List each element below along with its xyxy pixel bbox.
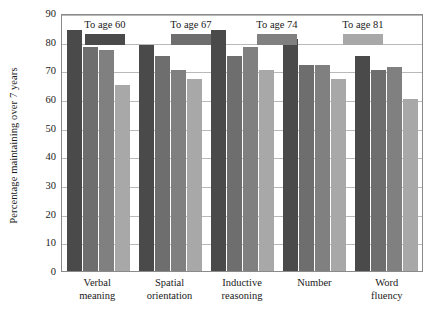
bar[interactable] [171,70,186,271]
bar[interactable] [355,56,370,271]
y-axis-tick-label: 60 [46,95,57,106]
bar[interactable] [67,30,82,271]
bar[interactable] [115,85,130,271]
y-axis-tick-label: 0 [51,267,56,278]
x-axis-tick-label: Inductivereasoning [206,276,278,302]
bar[interactable] [83,47,98,271]
legend-swatch [85,34,125,45]
y-axis-tick-label: 70 [46,66,57,77]
bar-group [62,15,134,271]
legend-label: To age 67 [170,19,211,31]
bar[interactable] [371,70,386,271]
bar-chart-figure: Percentage maintaining over 7 years 9080… [0,0,448,318]
bar-groups [62,15,422,271]
y-axis-tick-label: 30 [46,181,57,192]
legend-swatch [343,34,383,45]
bar[interactable] [211,30,226,271]
x-axis-tick-label: Wordfluency [351,276,423,302]
bar-group [350,15,422,271]
bar[interactable] [403,99,418,271]
y-axis-tick-label: 90 [46,9,57,20]
bar[interactable] [243,47,258,271]
bar[interactable] [283,39,298,271]
x-axis-tick-label: Number [278,276,350,302]
bar[interactable] [259,70,274,271]
legend-label: To age 81 [342,19,383,31]
bar[interactable] [331,79,346,271]
y-axis-tick-label: 50 [46,123,57,134]
bar-group [206,15,278,271]
legend-label: To age 60 [84,19,125,31]
bar[interactable] [387,67,402,271]
x-axis-tick-label-line: fluency [351,289,423,302]
y-axis-title: Percentage maintaining over 7 years [8,67,19,223]
bar[interactable] [139,45,154,271]
x-axis-tick-label-line: meaning [61,289,133,302]
x-axis-tick-label-line: reasoning [206,289,278,302]
legend-item-4[interactable]: To age 81 [328,19,398,45]
plot-area: To age 60To age 67To age 74To age 81 [61,14,423,272]
y-axis-tick-label: 40 [46,152,57,163]
legend-swatch [171,34,211,45]
bar[interactable] [187,79,202,271]
x-axis-tick-label: Spatialorientation [133,276,205,302]
legend-item-3[interactable]: To age 74 [242,19,312,45]
legend-item-2[interactable]: To age 67 [156,19,226,45]
bar[interactable] [227,56,242,271]
x-axis-tick-label-line: Verbal [61,276,133,289]
bar[interactable] [155,56,170,271]
y-axis-tick-label: 10 [46,238,57,249]
x-axis-tick-label-line: Inductive [206,276,278,289]
bar-group [278,15,350,271]
legend-swatch [257,34,297,45]
y-axis-tick-label: 80 [46,37,57,48]
legend-label: To age 74 [256,19,297,31]
bar[interactable] [315,65,330,271]
y-axis-title-container: Percentage maintaining over 7 years [0,0,26,290]
x-axis-tick-label-line: orientation [133,289,205,302]
x-axis-tick-label-line: Number [278,276,350,289]
y-axis-tick-labels: 9080706050403020100 [26,0,60,290]
x-axis-tick-labels: VerbalmeaningSpatialorientationInductive… [61,276,423,302]
legend-item-1[interactable]: To age 60 [70,19,140,45]
bar-group [134,15,206,271]
bar[interactable] [299,65,314,271]
legend: To age 60To age 67To age 74To age 81 [70,19,398,45]
bar[interactable] [99,50,114,271]
y-axis-tick-label: 20 [46,209,57,220]
x-axis-tick-label: Verbalmeaning [61,276,133,302]
x-axis-tick-label-line: Word [351,276,423,289]
x-axis-tick-label-line: Spatial [133,276,205,289]
